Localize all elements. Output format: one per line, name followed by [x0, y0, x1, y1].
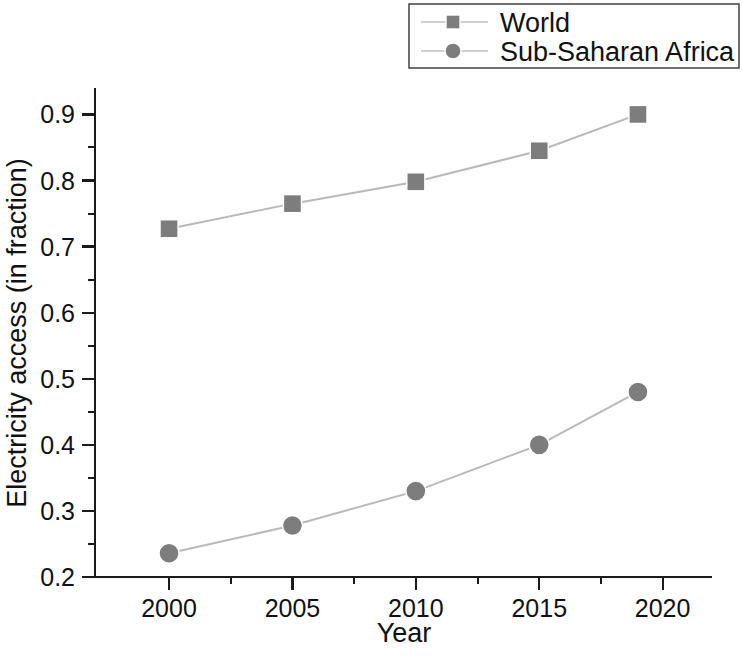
data-point-marker [159, 543, 179, 563]
x-tick-label: 2000 [141, 594, 197, 622]
data-point-marker [530, 142, 548, 160]
legend-marker-circle-icon [445, 43, 461, 59]
x-tick-label: 2005 [265, 594, 321, 622]
y-axis-tick-labels: 0.20.30.40.50.60.70.80.9 [40, 100, 75, 591]
legend-marker-square-icon [446, 15, 460, 29]
legend-label-world: World [500, 8, 570, 38]
chart-legend: World Sub-Saharan Africa [409, 4, 739, 68]
x-tick-label: 2015 [511, 594, 567, 622]
y-tick-label: 0.4 [40, 431, 75, 459]
data-point-marker [628, 382, 648, 402]
y-tick-label: 0.3 [40, 497, 75, 525]
data-point-marker [629, 105, 647, 123]
series-sub-saharan-africa [159, 382, 648, 563]
data-point-marker [283, 195, 301, 213]
y-tick-label: 0.7 [40, 233, 75, 261]
y-axis-ticks [82, 114, 95, 577]
x-axis-ticks [169, 577, 663, 590]
y-tick-label: 0.6 [40, 299, 75, 327]
data-point-marker [406, 481, 426, 501]
legend-label-sub-saharan-africa: Sub-Saharan Africa [500, 37, 735, 67]
line-chart-canvas: 0.20.30.40.50.60.70.80.9 200020052010201… [0, 0, 743, 656]
data-point-marker [282, 515, 302, 535]
y-tick-label: 0.5 [40, 365, 75, 393]
data-series-layer [159, 105, 648, 563]
series-line [169, 114, 638, 228]
series-line [169, 392, 638, 553]
y-tick-label: 0.9 [40, 100, 75, 128]
y-tick-label: 0.8 [40, 167, 75, 195]
x-tick-label: 2020 [635, 594, 691, 622]
chart-figure: 0.20.30.40.50.60.70.80.9 200020052010201… [0, 0, 743, 656]
y-tick-label: 0.2 [40, 563, 75, 591]
data-point-marker [160, 220, 178, 238]
y-axis-title: Electricity access (in fraction) [2, 158, 32, 508]
data-point-marker [529, 435, 549, 455]
data-point-marker [407, 173, 425, 191]
series-world [160, 105, 647, 237]
x-axis-title: Year [377, 618, 432, 648]
